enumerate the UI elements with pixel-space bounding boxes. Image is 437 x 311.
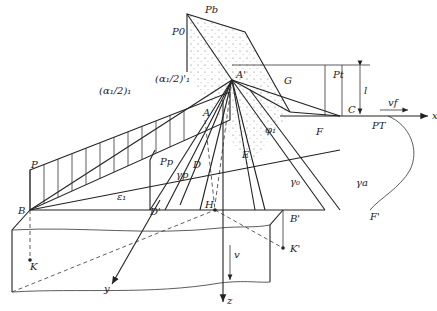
label-g: G bbox=[284, 75, 292, 86]
label-alpha-half: (α₁/2)₁ bbox=[99, 85, 131, 96]
label-h: H bbox=[204, 199, 214, 210]
label-p0: P0 bbox=[171, 26, 186, 37]
label-pp: Pp bbox=[159, 156, 174, 167]
label-l: l bbox=[364, 85, 367, 96]
label-z-axis: z bbox=[226, 295, 233, 306]
label-vf: vf bbox=[388, 97, 400, 108]
diagram-canvas: P0 Pb A' A G Pt C F E D D' H B B' F' K K… bbox=[0, 0, 437, 311]
label-v: v bbox=[234, 249, 240, 260]
label-b: B bbox=[17, 205, 25, 216]
label-c: C bbox=[348, 104, 356, 115]
label-k: K bbox=[29, 261, 38, 272]
label-pb: Pb bbox=[204, 4, 218, 15]
edge-fan bbox=[30, 80, 340, 210]
label-k-prime: K' bbox=[289, 243, 300, 254]
label-phi: φ₁ bbox=[265, 124, 276, 135]
rake-face-plane bbox=[187, 14, 290, 168]
label-d: D bbox=[192, 159, 201, 170]
label-epsilon: ε₁ bbox=[117, 191, 126, 202]
label-gamma-0: γ₀ bbox=[290, 176, 300, 187]
label-gamma-p: γp bbox=[176, 169, 189, 180]
label-alpha-half-prime: (α₁/2)'₁ bbox=[155, 73, 190, 84]
label-b-prime: B' bbox=[289, 213, 300, 224]
label-f-prime: F' bbox=[369, 211, 380, 222]
label-a-prime: A' bbox=[235, 69, 246, 80]
label-pt-curve: PT bbox=[371, 120, 387, 131]
label-e: E bbox=[241, 149, 250, 160]
label-a: A bbox=[202, 107, 210, 118]
label-y-axis: y bbox=[103, 283, 110, 294]
label-p: P bbox=[30, 159, 38, 170]
label-gamma-a: γa bbox=[356, 177, 368, 188]
label-d-prime: D' bbox=[149, 206, 161, 217]
construction-diagram: P0 Pb A' A G Pt C F E D D' H B B' F' K K… bbox=[0, 0, 437, 311]
label-pt: Pt bbox=[332, 69, 345, 80]
label-x-axis: x bbox=[432, 110, 437, 121]
label-f: F bbox=[315, 126, 324, 137]
